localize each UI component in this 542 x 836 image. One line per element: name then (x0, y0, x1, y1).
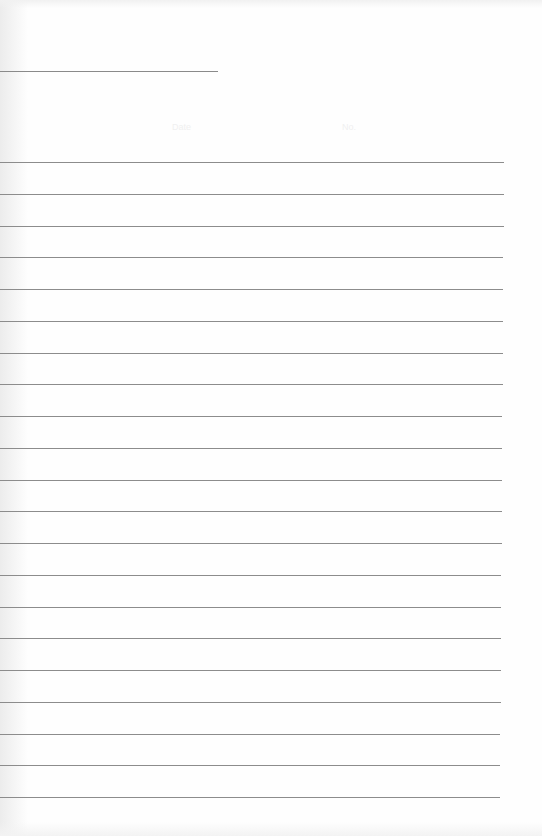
ruled-line (0, 638, 501, 639)
date-label: Date (172, 122, 191, 132)
title-line (0, 71, 218, 72)
number-label: No. (342, 122, 356, 132)
ruled-line (0, 384, 503, 385)
ruled-line (0, 734, 500, 735)
bottom-edge-shadow (0, 822, 542, 836)
ruled-line (0, 511, 502, 512)
ruled-line (0, 607, 501, 608)
ruled-line (0, 226, 504, 227)
ruled-line (0, 289, 503, 290)
ruled-line (0, 480, 502, 481)
ruled-line (0, 257, 503, 258)
ruled-line (0, 194, 504, 195)
ruled-line (0, 797, 500, 798)
ruled-line (0, 543, 502, 544)
ruled-line (0, 575, 501, 576)
ruled-line (0, 321, 503, 322)
ruled-line (0, 702, 501, 703)
left-edge-shadow (0, 0, 28, 836)
ruled-line (0, 416, 502, 417)
ruled-line (0, 670, 501, 671)
lined-paper-page: Date No. (0, 0, 542, 836)
ruled-line (0, 448, 502, 449)
ruled-line (0, 765, 500, 766)
ruled-line (0, 353, 503, 354)
ruled-line (0, 162, 504, 163)
top-edge-shadow (0, 0, 542, 8)
